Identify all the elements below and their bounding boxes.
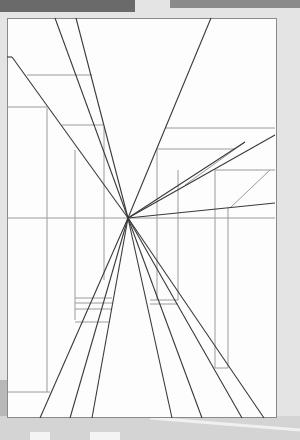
perspective-drawing (0, 0, 300, 440)
